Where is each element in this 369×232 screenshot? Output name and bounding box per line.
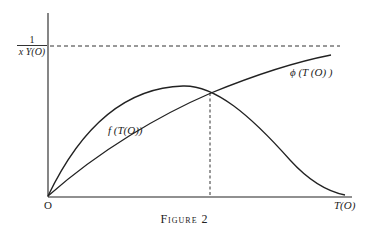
- y-axis-label: 1 x Y(O): [17, 34, 47, 57]
- phi-curve-label: ϕ (T (O) ): [290, 66, 332, 78]
- f-curve-label: f (T(O)): [108, 124, 143, 136]
- figure-canvas: [0, 0, 369, 232]
- f-curve: [48, 86, 345, 196]
- y-label-denominator: x Y(O): [19, 46, 45, 57]
- phi-curve: [48, 55, 331, 196]
- y-label-numerator: 1: [17, 34, 47, 46]
- x-axis-label: T(O): [334, 199, 355, 211]
- figure-caption: Figure 2: [0, 212, 369, 227]
- origin-label: O: [44, 199, 52, 211]
